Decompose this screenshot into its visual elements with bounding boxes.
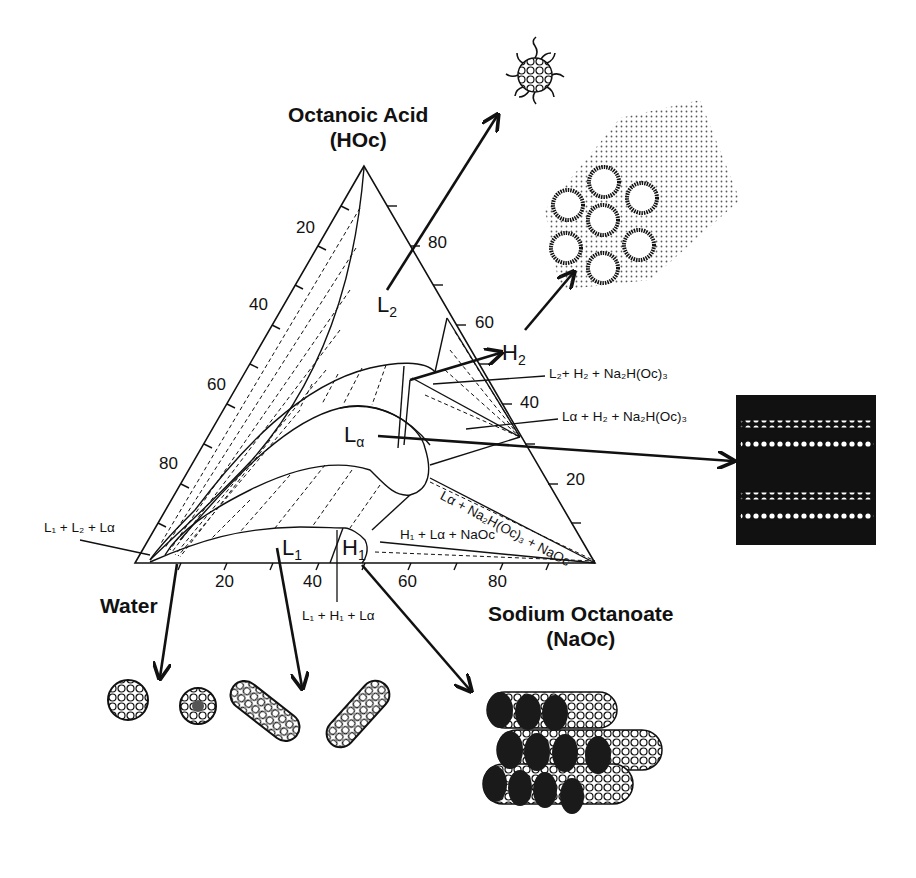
h1-main: H [342,535,358,560]
bottom-tick-40: 40 [303,572,322,592]
right-tick-40: 40 [520,393,539,413]
vertex-label-sodium-octanoate: Sodium Octanoate (NaOc) [488,601,674,651]
bottom-tick-60: 60 [398,572,417,592]
bottom-tick-20: 20 [215,572,234,592]
phase-label-l1: L1 [282,535,302,563]
h2-main: H [502,340,518,365]
reverse-hexagonal-illustration [545,100,740,290]
h2-sub: 2 [518,352,526,368]
octanoic-acid-label: Octanoic Acid [288,102,428,127]
ternary-triangle [135,166,595,563]
region-label-la-h2-na2h: Lα + H₂ + Na₂H(Oc)₃ [562,409,687,424]
naoc-label: (NaOc) [488,626,674,651]
water-label: Water [100,594,158,617]
h1-sub: 1 [358,547,366,563]
right-tick-20: 20 [566,470,585,490]
reverse-micelle-illustration [506,37,564,104]
phase-diagram-figure: Octanoic Acid (HOc) Water Sodium Octanoa… [0,0,916,878]
right-tick-80: 80 [428,233,447,253]
lamellar-illustration [736,395,876,545]
l1-sub: 1 [294,547,302,563]
label-leaders [80,376,558,602]
region-label-l2-h2-na2h: L₂+ H₂ + Na₂H(Oc)₃ [549,366,668,381]
right-tick-60: 60 [475,313,494,333]
phase-label-h1: H1 [342,535,366,563]
phase-label-h2: H2 [502,340,526,368]
hexagonal-cylinders-illustration [483,692,662,814]
left-tick-40: 40 [249,295,268,315]
l2-sub: 2 [389,304,397,320]
vertex-label-top: Octanoic Acid (HOc) [288,102,428,152]
left-edge-ticks [158,206,349,527]
l1-main: L [282,535,294,560]
sodium-octanoate-label: Sodium Octanoate [488,601,674,626]
la-sub: α [356,434,364,450]
ternary-diagram-svg [0,0,916,878]
l2-main: L [377,292,389,317]
phase-label-l2: L2 [377,292,397,320]
left-tick-20: 20 [296,218,315,238]
phase-label-lalpha: Lα [344,422,364,450]
region-label-h1-la-naoc: H₁ + Lα + NaOc [400,527,495,542]
hoc-label: (HOc) [288,127,428,152]
normal-micelles-illustration [108,675,395,753]
la-main: L [344,422,356,447]
left-tick-60: 60 [207,375,226,395]
region-label-l1-l2-la: L₁ + L₂ + Lα [44,520,115,535]
vertex-label-water: Water [100,593,158,618]
left-tick-80: 80 [159,454,178,474]
phase-boundaries [150,168,595,563]
region-label-l1-h1-la: L₁ + H₁ + Lα [302,608,374,623]
bottom-tick-80: 80 [488,572,507,592]
